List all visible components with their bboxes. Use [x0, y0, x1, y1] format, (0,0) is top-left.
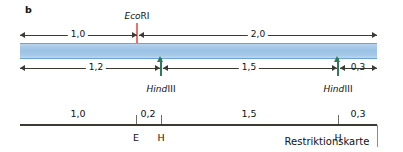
map-site-letter-h-1: H [157, 132, 164, 143]
arrowhead-left-1-2 [20, 65, 25, 71]
panel-letter: b [25, 4, 32, 15]
hindiii-label-2-italic: Hind [323, 84, 344, 94]
map-fragment-label-4: 0,3 [350, 108, 365, 119]
hindiii-fragment-measure-row: 1,2 1,5 0,3 [0, 68, 403, 79]
ecori-label-italic: Eco [124, 11, 140, 21]
arrowhead-left-0-3 [340, 65, 345, 71]
arrowhead-right-1-0 [132, 32, 137, 38]
map-tick-hindiii-2 [338, 115, 339, 124]
map-fragment-label-2: 0,2 [140, 108, 155, 119]
map-tick-hindiii-1 [161, 115, 162, 124]
fragment-label-bottom-2: 1,5 [239, 61, 259, 74]
map-tick-ecori [136, 115, 137, 124]
arrowhead-left-1-0 [20, 32, 25, 38]
restriction-map-axis [20, 124, 377, 126]
arrowhead-right-0-3 [372, 65, 377, 71]
map-site-letter-e: E [133, 132, 139, 143]
arrowhead-left-1-5 [163, 65, 168, 71]
fragment-label-top-2: 2,0 [248, 28, 268, 41]
ecori-label-roman: RI [141, 11, 150, 21]
ecori-label: EcoRI [124, 11, 149, 21]
map-fragment-label-1: 1,0 [70, 108, 85, 119]
hindiii-label-2-roman: III [344, 84, 352, 94]
restriction-map-figure: b EcoRI 1,0 2,0 1,2 1,5 [0, 0, 403, 152]
hindiii-cut-arrow-head-1 [157, 56, 163, 62]
map-end-tick [377, 125, 378, 147]
fragment-label-bottom-1: 1,2 [86, 61, 106, 74]
hindiii-label-1: HindIII [146, 84, 175, 94]
arrowhead-right-2-0 [372, 32, 377, 38]
arrowhead-left-2-0 [139, 32, 144, 38]
arrowhead-right-1-2 [155, 65, 160, 71]
map-fragment-label-3: 1,5 [241, 108, 256, 119]
dna-molecule-bar [20, 43, 377, 59]
fragment-label-bottom-3: 0,3 [348, 61, 368, 74]
map-caption: Restriktionskarte [285, 136, 370, 147]
hindiii-label-1-italic: Hind [146, 84, 167, 94]
hindiii-label-2: HindIII [323, 84, 352, 94]
hindiii-cut-arrow-head-2 [334, 56, 340, 62]
fragment-label-top-1: 1,0 [68, 28, 88, 41]
hindiii-label-1-roman: III [167, 84, 175, 94]
arrowhead-right-1-5 [332, 65, 337, 71]
